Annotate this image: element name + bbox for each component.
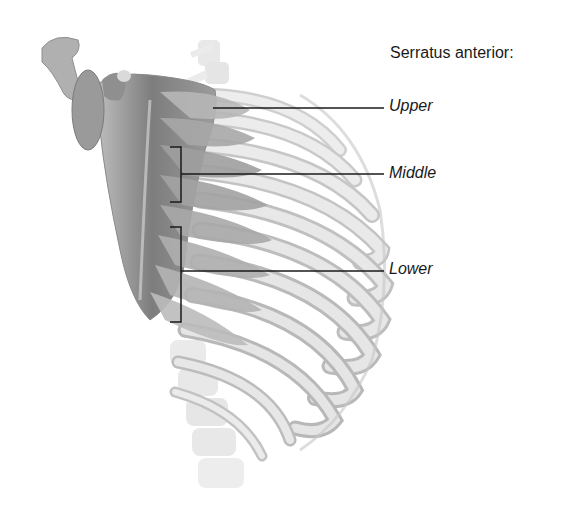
label-upper: Upper (389, 97, 433, 115)
label-middle: Middle (389, 164, 436, 182)
label-lower: Lower (389, 260, 433, 278)
ribcage-illustration (0, 0, 583, 510)
serratus-anterior-figure: Serratus anterior: Upper Middle Lower (0, 0, 583, 510)
figure-title: Serratus anterior: (390, 44, 514, 62)
